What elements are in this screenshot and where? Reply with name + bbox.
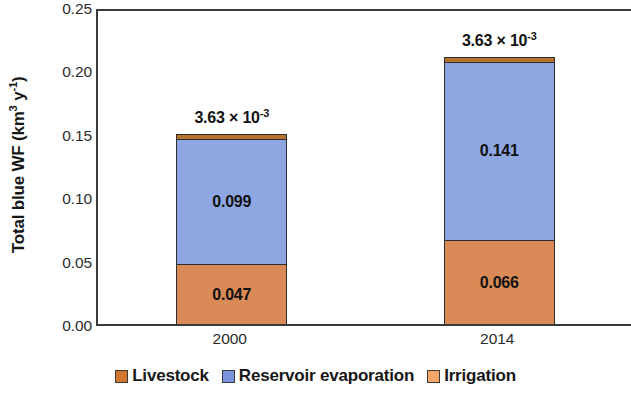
y-axis-tick-label: 0.15 xyxy=(38,127,92,145)
legend-item-livestock[interactable]: Livestock xyxy=(115,366,209,386)
y-axis-title: Total blue WF (km3 y-1) xyxy=(0,0,36,330)
y-axis-title-prefix: Total blue WF (km xyxy=(9,112,28,254)
bar-segment-irrigation[interactable]: 0.047 xyxy=(176,264,287,324)
legend-item-reservoir-evaporation[interactable]: Reservoir evaporation xyxy=(222,366,414,386)
chart-legend: LivestockReservoir evaporationIrrigation xyxy=(0,366,631,386)
y-axis-tick-labels: 0.000.050.100.150.200.25 xyxy=(34,0,92,330)
bar-segment-value-label: 0.047 xyxy=(212,286,251,304)
bar-annotation-livestock: 3.63 × 10-3 xyxy=(462,30,537,50)
bar-annotation-exponent: -3 xyxy=(527,30,536,42)
bar-segment-livestock[interactable] xyxy=(444,57,555,62)
bar-annotation-mantissa: 3.63 × 10 xyxy=(194,109,259,126)
bar-annotation-livestock: 3.63 × 10-3 xyxy=(194,107,269,127)
y-axis-title-sup-2: -1 xyxy=(7,82,19,92)
y-axis-tick-label: 0.20 xyxy=(38,63,92,81)
y-axis-title-sup-1: 3 xyxy=(7,106,19,112)
chart-figure: Total blue WF (km3 y-1) 0.000.050.100.15… xyxy=(0,0,631,402)
bar-segment-value-label: 0.141 xyxy=(480,142,519,160)
bar-annotation-mantissa: 3.63 × 10 xyxy=(462,32,527,49)
y-axis-tick-label: 0.05 xyxy=(38,254,92,272)
y-axis-title-suffix: ) xyxy=(9,77,28,82)
plot-area: 0.0470.0993.63 × 10-30.0660.1413.63 × 10… xyxy=(96,9,631,326)
y-axis-tick-label: 0.10 xyxy=(38,190,92,208)
y-axis-tick-label: 0.00 xyxy=(38,317,92,335)
legend-label: Livestock xyxy=(132,366,209,386)
bar-annotation-exponent: -3 xyxy=(260,107,269,119)
y-axis-tick-label: 0.25 xyxy=(38,0,92,18)
legend-label: Irrigation xyxy=(444,366,516,386)
bar-group: 0.0470.0993.63 × 10-3 xyxy=(176,11,287,324)
bar-group: 0.0660.1413.63 × 10-3 xyxy=(444,11,555,324)
x-axis-tick-label: 2000 xyxy=(213,330,247,348)
legend-label: Reservoir evaporation xyxy=(239,366,414,386)
y-axis-title-text: Total blue WF (km3 y-1) xyxy=(7,77,29,254)
bar-segment-livestock[interactable] xyxy=(176,134,287,139)
plot-inner: 0.0470.0993.63 × 10-30.0660.1413.63 × 10… xyxy=(98,11,631,324)
legend-item-irrigation[interactable]: Irrigation xyxy=(427,366,516,386)
x-axis-tick-label: 2014 xyxy=(480,330,514,348)
legend-swatch xyxy=(427,370,440,383)
bar-segment-value-label: 0.066 xyxy=(480,274,519,292)
bar-segment-value-label: 0.099 xyxy=(212,193,251,211)
legend-swatch xyxy=(222,370,235,383)
bar-segment-reservoir-evaporation[interactable]: 0.141 xyxy=(444,62,555,241)
bar-segment-reservoir-evaporation[interactable]: 0.099 xyxy=(176,139,287,265)
y-axis-title-mid: y xyxy=(9,92,28,106)
bar-segment-irrigation[interactable]: 0.066 xyxy=(444,240,555,324)
x-axis-tick-labels: 20002014 xyxy=(96,330,631,356)
legend-swatch xyxy=(115,370,128,383)
